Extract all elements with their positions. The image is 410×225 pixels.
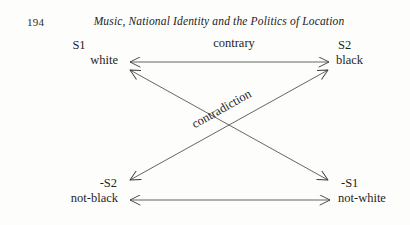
node-s1: S1 white — [42, 38, 118, 68]
node-not-s1: -S1 not-white — [338, 176, 410, 206]
relation-label-contrary: contrary — [186, 36, 282, 51]
node-not-s1-symbol: -S1 — [338, 176, 410, 191]
node-not-s2-term: not-black — [42, 191, 118, 206]
node-not-s2-symbol: -S2 — [42, 176, 118, 191]
node-not-s2: -S2 not-black — [42, 176, 118, 206]
node-s1-symbol: S1 — [42, 38, 118, 53]
semiotic-square-diagram: S1 white S2 black -S2 not-black -S1 not-… — [0, 0, 410, 225]
book-page: 194 Music, National Identity and the Pol… — [0, 0, 410, 225]
node-s2-symbol: S2 — [336, 38, 410, 53]
node-s2: S2 black — [336, 38, 410, 68]
node-s2-term: black — [336, 53, 410, 68]
node-s1-term: white — [42, 53, 118, 68]
node-not-s1-term: not-white — [338, 191, 410, 206]
